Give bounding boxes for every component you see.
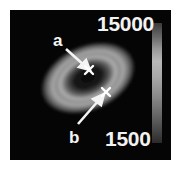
marker-b-label: b	[69, 129, 79, 146]
colorbar-max-label: 15000	[97, 13, 154, 34]
image-panel: 15000 1500 a b	[10, 10, 171, 160]
colorbar-min-label: 1500	[105, 128, 151, 149]
colorbar	[152, 23, 162, 143]
marker-a-label: a	[53, 32, 62, 49]
